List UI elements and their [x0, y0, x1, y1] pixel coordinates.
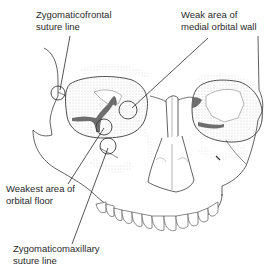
zygomaticomaxillary-circle [100, 138, 116, 154]
label-orbital-floor: Weakest area of orbital floor [6, 183, 75, 207]
label-line: orbital floor [6, 195, 75, 207]
label-zygomaticofrontal: Zygomaticofrontal suture line [36, 9, 112, 33]
teeth [96, 202, 218, 231]
skull-orbit-diagram: Zygomaticofrontal suture line Weak area … [0, 0, 275, 270]
leader-zygomaticomaxillary [72, 148, 108, 244]
label-line: Weak area of [181, 9, 257, 21]
label-line: Zygomaticomaxillary [13, 243, 100, 255]
label-line: medial orbital wall [181, 21, 257, 33]
label-line: suture line [36, 21, 112, 33]
label-line: Weakest area of [6, 183, 75, 195]
label-line: Zygomaticofrontal [36, 9, 112, 21]
leader-zygomaticofrontal [60, 36, 70, 90]
label-zygomaticomaxillary: Zygomaticomaxillary suture line [13, 243, 100, 267]
skull-drawing [0, 0, 275, 270]
leader-orbital-floor [68, 128, 104, 184]
label-line: suture line [13, 255, 100, 267]
label-medial-orbital-wall: Weak area of medial orbital wall [181, 9, 257, 33]
nasal-cavity [148, 136, 194, 192]
